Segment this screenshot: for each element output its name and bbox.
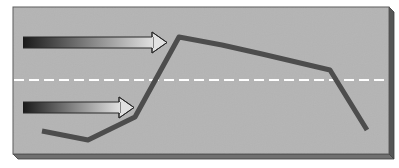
chart-figure [0,0,399,168]
lower-arrow-shaft [23,102,120,113]
panel-edge-right [389,7,394,159]
panel-edge-bottom [13,154,394,159]
upper-arrow-shaft [23,37,153,48]
